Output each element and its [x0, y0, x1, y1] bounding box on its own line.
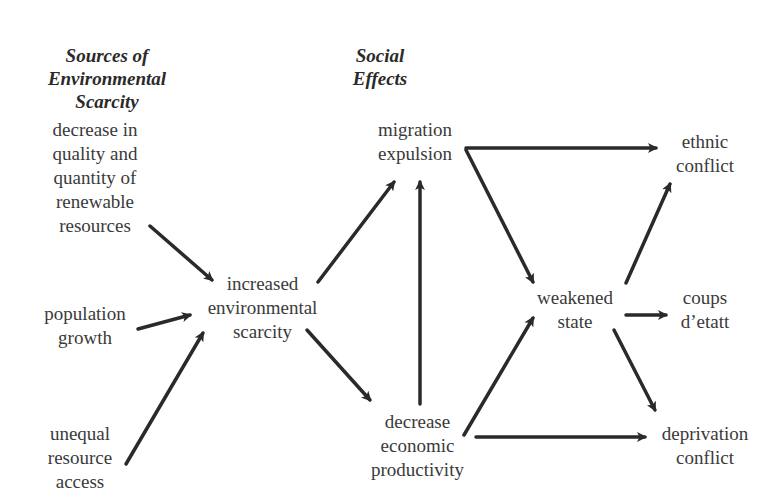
arrow-layer [0, 0, 772, 504]
arrow-productivity-to-weakened-state [464, 318, 533, 435]
arrow-weakened-state-to-ethnic-conflict [626, 184, 670, 283]
arrow-scarcity-to-productivity [307, 330, 370, 400]
arrow-migration-to-weakened-state [466, 150, 533, 282]
arrow-unequal-access-to-scarcity [126, 333, 203, 464]
arrow-population-to-scarcity [138, 315, 190, 329]
arrow-scarcity-to-migration [318, 182, 394, 282]
arrow-decrease-quality-to-scarcity [150, 226, 212, 280]
arrow-weakened-state-to-deprivation [614, 330, 655, 410]
